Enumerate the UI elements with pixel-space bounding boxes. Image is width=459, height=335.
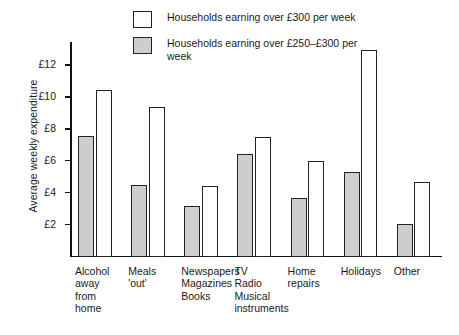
bar-grey — [78, 136, 94, 257]
bar-white — [308, 161, 324, 257]
legend-entry-high-income: Households earning over £300 per week — [133, 11, 433, 28]
category-label: Other — [394, 265, 420, 277]
bar-grey — [184, 206, 200, 257]
y-tick-label: £12 — [38, 58, 56, 70]
category-label: Holidays — [341, 265, 381, 277]
y-tick: £12 — [65, 64, 70, 66]
y-tick: £10 — [65, 96, 70, 98]
bar-grey — [397, 224, 413, 257]
y-tick-label: £10 — [38, 90, 56, 102]
y-tick: £8 — [65, 128, 70, 130]
category-label: Alcohol away from home — [75, 265, 109, 315]
category-label: Newspapers Magazines Books — [181, 265, 239, 302]
y-tick: £2 — [65, 224, 70, 226]
bar-white — [149, 107, 165, 258]
y-axis-line — [70, 42, 72, 257]
y-tick-label: £2 — [44, 218, 56, 230]
bar-grey — [237, 154, 253, 257]
bar-white — [255, 137, 271, 257]
legend-swatch-white — [133, 11, 152, 28]
bar-white — [361, 50, 377, 257]
bar-white — [202, 186, 218, 257]
legend-label-high-income: Households earning over £300 per week — [167, 11, 356, 24]
category-label: TV Radio Musical instruments — [234, 265, 288, 315]
bar-white — [96, 90, 112, 257]
bar-white — [414, 182, 430, 257]
plot-area: £2£4£6£8£10£12 Alcohol away from homeMea… — [70, 42, 442, 257]
bar-grey — [291, 198, 307, 257]
y-tick-label: £4 — [44, 186, 56, 198]
category-label: Meals 'out' — [128, 265, 156, 290]
y-tick: £6 — [65, 160, 70, 162]
category-label: Home repairs — [288, 265, 320, 290]
y-axis-title: Average weekly expenditure — [27, 46, 39, 246]
bar-grey — [344, 172, 360, 257]
y-tick-label: £8 — [44, 122, 56, 134]
y-tick-label: £6 — [44, 154, 56, 166]
y-tick: £4 — [65, 192, 70, 194]
bar-grey — [131, 185, 147, 257]
bar-chart: Average weekly expenditure Households ea… — [0, 0, 459, 335]
